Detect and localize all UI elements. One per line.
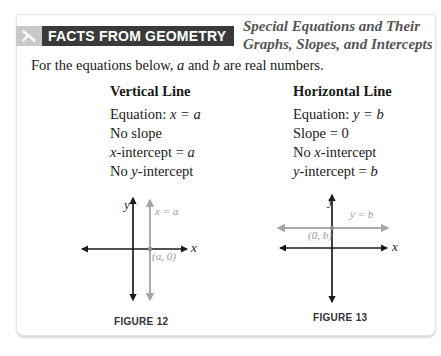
no-prefix: No bbox=[110, 163, 131, 179]
x-axis-label: x bbox=[191, 240, 197, 256]
point-label: (a, 0) bbox=[152, 250, 176, 262]
x-intercept-text: -intercept bbox=[321, 144, 377, 160]
intro-mid: and bbox=[184, 57, 212, 73]
vertical-equation: Equation: x = a bbox=[110, 105, 201, 124]
y-axis-label: y bbox=[328, 193, 334, 209]
ruler-compass-icon bbox=[16, 26, 42, 46]
section-banner: FACTS FROM GEOMETRY bbox=[16, 26, 234, 46]
horizontal-slope: Slope = 0 bbox=[293, 124, 392, 143]
horizontal-line-column: Horizontal Line Equation: y = b Slope = … bbox=[293, 82, 392, 181]
horizontal-line-title: Horizontal Line bbox=[293, 82, 392, 101]
subtitle-line-1: Special Equations and Their bbox=[243, 17, 433, 35]
intro-suffix: are real numbers. bbox=[220, 57, 324, 73]
y-axis-label: y bbox=[124, 197, 130, 213]
equation-value: x = a bbox=[170, 106, 201, 122]
x-intercept-text: -intercept = bbox=[116, 144, 187, 160]
vertical-y-intercept: No y-intercept bbox=[110, 162, 201, 181]
x-axis-label: x bbox=[392, 239, 398, 255]
equation-label: Equation: bbox=[110, 106, 170, 122]
intro-var-b: b bbox=[213, 57, 220, 73]
vertical-x-intercept: x-intercept = a bbox=[110, 143, 201, 162]
vertical-slope: No slope bbox=[110, 124, 201, 143]
vertical-line-column: Vertical Line Equation: x = a No slope x… bbox=[110, 82, 201, 181]
line-label: y = b bbox=[350, 208, 373, 220]
section-subtitle: Special Equations and Their Graphs, Slop… bbox=[243, 17, 433, 53]
y-intercept-value: b bbox=[370, 163, 377, 179]
intro-prefix: For the equations below, bbox=[31, 57, 177, 73]
figure-12-caption: FIGURE 12 bbox=[114, 316, 168, 327]
equation-value: y = b bbox=[353, 106, 384, 122]
y-intercept-text: -intercept bbox=[138, 163, 194, 179]
intro-text: For the equations below, a and b are rea… bbox=[31, 57, 324, 74]
line-label: x = a bbox=[155, 205, 178, 217]
horizontal-equation: Equation: y = b bbox=[293, 105, 392, 124]
subtitle-line-2: Graphs, Slopes, and Intercepts bbox=[243, 35, 433, 53]
horizontal-y-intercept: y-intercept = b bbox=[293, 162, 392, 181]
y-intercept-text: -intercept = bbox=[299, 163, 370, 179]
equation-label: Equation: bbox=[293, 106, 353, 122]
no-prefix: No bbox=[293, 144, 314, 160]
figure-13-caption: FIGURE 13 bbox=[313, 312, 367, 323]
x-intercept-value: a bbox=[187, 144, 194, 160]
point-label: (0, b) bbox=[308, 229, 332, 241]
vertical-line-title: Vertical Line bbox=[110, 82, 201, 101]
banner-label: FACTS FROM GEOMETRY bbox=[42, 26, 234, 46]
horizontal-x-intercept: No x-intercept bbox=[293, 143, 392, 162]
figure-12-graph bbox=[70, 190, 220, 310]
